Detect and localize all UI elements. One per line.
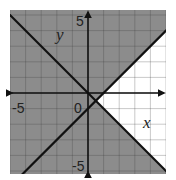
x-axis-label: x xyxy=(142,113,151,132)
inequality-graph: -5 0 5 -5 y x xyxy=(0,0,176,180)
y-tick-label-neg5: -5 xyxy=(72,158,85,174)
y-axis-label: y xyxy=(54,25,64,44)
y-tick-label-5: 5 xyxy=(76,13,84,29)
origin-label: 0 xyxy=(74,100,82,116)
x-tick-label-neg5: -5 xyxy=(12,100,25,116)
